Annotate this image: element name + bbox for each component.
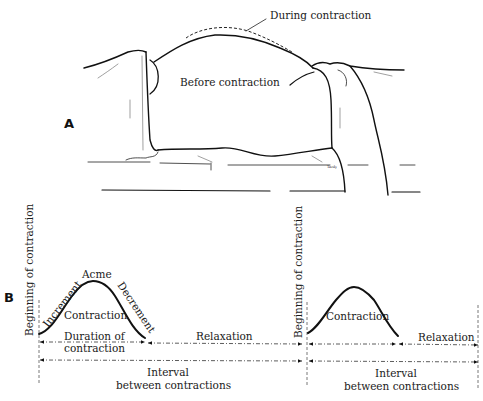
examiner-hand-drawing <box>312 63 404 195</box>
interval-label-1-line1: Interval <box>147 366 190 378</box>
before-contraction-label: Before contraction <box>180 76 280 88</box>
panel-b: B Beginning of contraction Increment Acm… <box>4 203 478 392</box>
duration-label-line1: Duration of <box>64 330 126 342</box>
panel-b-letter: B <box>4 290 14 305</box>
panel-a: A <box>64 9 420 195</box>
contraction-label-2: Contraction <box>326 310 389 322</box>
artist-signature: Tardy <box>327 165 337 169</box>
contraction-label-1: Contraction <box>64 309 127 321</box>
interval-label-2-line2: between contractions <box>344 380 459 392</box>
beginning-of-contraction-label-1: Beginning of contraction <box>23 203 35 336</box>
duration-label-line2: contraction <box>64 342 125 354</box>
interval-label-2-line1: Interval <box>375 367 418 379</box>
interval-arrow-2 <box>309 361 478 362</box>
relaxation-arrow-1 <box>148 343 302 344</box>
relaxation-arrow-2 <box>399 344 478 345</box>
left-thigh-drawing <box>84 51 158 161</box>
relaxation-label-2: Relaxation <box>418 331 475 343</box>
interval-label-1-line2: between contractions <box>116 379 231 391</box>
relaxation-label-1: Relaxation <box>196 330 253 342</box>
exam-table-lines <box>88 156 420 192</box>
first-contraction-cycle: Beginning of contraction Increment Acme … <box>23 203 302 391</box>
second-contraction-cycle: Beginning of contraction Contraction Rel… <box>292 205 478 392</box>
interval-arrow-1 <box>40 360 302 361</box>
uterine-contraction-diagram: A <box>0 0 483 401</box>
beginning-of-contraction-label-2: Beginning of contraction <box>292 205 304 338</box>
acme-label: Acme <box>81 268 112 280</box>
panel-a-letter: A <box>64 116 74 131</box>
during-contraction-label: During contraction <box>270 9 372 21</box>
increment-label: Increment <box>40 278 84 329</box>
during-contraction-outline <box>186 27 292 52</box>
